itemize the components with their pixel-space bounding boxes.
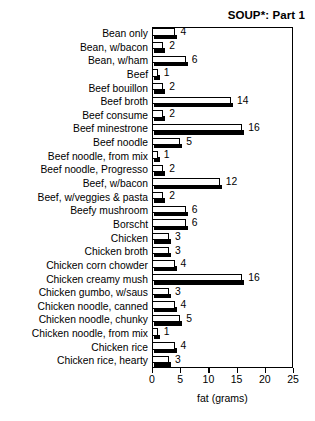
bar-row: Chicken corn chowder4	[0, 259, 315, 273]
value-label: 1	[164, 149, 170, 161]
value-label: 3	[175, 245, 181, 257]
bar-row: Bean only4	[0, 27, 315, 41]
value-label: 4	[181, 258, 187, 270]
value-label: 4	[181, 26, 187, 38]
bar	[152, 138, 180, 149]
value-label: 2	[169, 190, 175, 202]
bar	[152, 42, 163, 53]
value-label: 3	[175, 231, 181, 243]
bar	[152, 28, 175, 39]
value-label: 3	[175, 286, 181, 298]
category-label: Chicken	[111, 232, 148, 245]
bar-row: Beefy mushroom6	[0, 204, 315, 218]
category-label: Beef	[127, 68, 148, 81]
bar-row: Chicken rice4	[0, 341, 315, 355]
category-label: Bean, w/bacon	[80, 41, 148, 54]
bar-face	[152, 69, 158, 76]
bar	[152, 274, 242, 285]
bar	[152, 342, 175, 353]
category-label: Chicken rice, hearty	[57, 354, 148, 367]
bar-row: Borscht6	[0, 218, 315, 232]
category-label: Beef minestrone	[73, 122, 148, 135]
category-label: Chicken gumbo, w/saus	[39, 286, 148, 299]
value-label: 6	[192, 217, 198, 229]
value-label: 12	[226, 176, 237, 188]
bar	[152, 233, 169, 244]
bar-row: Chicken noodle, canned4	[0, 300, 315, 314]
value-label: 6	[192, 54, 198, 66]
bar	[152, 110, 163, 121]
category-label: Bean only	[102, 27, 148, 40]
bar-row: Chicken broth3	[0, 245, 315, 259]
category-label: Beef bouillon	[88, 82, 148, 95]
bar-row: Beef noodle, from mix1	[0, 150, 315, 164]
bar-row: Chicken noodle, from mix1	[0, 327, 315, 341]
bar	[152, 69, 158, 80]
bar-face	[152, 342, 175, 349]
bar-row: Beef noodle, Progresso2	[0, 163, 315, 177]
value-label: 16	[248, 122, 259, 134]
value-label: 1	[164, 67, 170, 79]
bar-face	[152, 206, 186, 213]
value-label: 14	[237, 95, 248, 107]
bar-row: Chicken rice, hearty3	[0, 354, 315, 368]
bar	[152, 356, 169, 367]
bar-row: Bean, w/ham6	[0, 54, 315, 68]
bar	[152, 315, 180, 326]
bar-face	[152, 42, 163, 49]
bar	[152, 288, 169, 299]
bar-row: Chicken creamy mush16	[0, 273, 315, 287]
x-tick-label: 0	[149, 373, 155, 386]
category-label: Beef noodle, Progresso	[40, 163, 148, 176]
bar-row: Chicken gumbo, w/saus3	[0, 286, 315, 300]
bar-face	[152, 97, 231, 104]
bar-face	[152, 247, 169, 254]
x-axis-title: fat (grams)	[152, 392, 293, 405]
x-tick-label: 10	[203, 373, 215, 386]
value-label: 2	[169, 108, 175, 120]
value-label: 16	[248, 272, 259, 284]
value-label: 2	[169, 81, 175, 93]
bar-face	[152, 260, 175, 267]
category-label: Beef noodle	[93, 136, 148, 149]
x-tick-label: 20	[259, 373, 271, 386]
category-label: Beef, w/veggies & pasta	[38, 191, 148, 204]
bar-face	[152, 138, 180, 145]
bar	[152, 97, 231, 108]
bar	[152, 260, 175, 271]
bar-face	[152, 83, 163, 90]
category-label: Beef broth	[100, 95, 148, 108]
chart-figure: SOUP*: Part 1 Bean only4Bean, w/bacon2Be…	[0, 0, 315, 421]
value-label: 5	[186, 136, 192, 148]
category-label: Chicken noodle, canned	[38, 300, 149, 313]
bar	[152, 124, 242, 135]
bar	[152, 151, 158, 162]
bar	[152, 56, 186, 67]
bar-face	[152, 56, 186, 63]
bar-face	[152, 288, 169, 295]
category-label: Chicken creamy mush	[46, 273, 148, 286]
bar-row: Beef consume2	[0, 109, 315, 123]
bar-row: Beef minestrone16	[0, 122, 315, 136]
bar	[152, 165, 163, 176]
bar-row: Chicken noodle, chunky5	[0, 313, 315, 327]
bar-face	[152, 233, 169, 240]
bar-row: Beef noodle5	[0, 136, 315, 150]
value-label: 4	[181, 299, 187, 311]
bar-row: Bean, w/bacon2	[0, 41, 315, 55]
bar	[152, 178, 220, 189]
x-tick-label: 15	[231, 373, 243, 386]
category-label: Chicken corn chowder	[46, 259, 148, 272]
bar	[152, 328, 158, 339]
value-label: 2	[169, 40, 175, 52]
bar-row: Beef, w/bacon12	[0, 177, 315, 191]
bar-row: Beef, w/veggies & pasta2	[0, 191, 315, 205]
category-label: Chicken rice	[91, 341, 148, 354]
bar	[152, 192, 163, 203]
bar	[152, 247, 169, 258]
value-label: 6	[192, 204, 198, 216]
bar-face	[152, 165, 163, 172]
value-label: 3	[175, 354, 181, 366]
bar-row: Beef broth14	[0, 95, 315, 109]
category-label: Beef consume	[82, 109, 148, 122]
